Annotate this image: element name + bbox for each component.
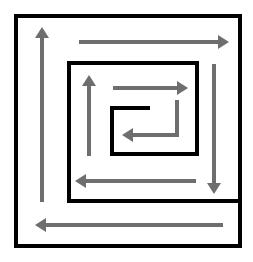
- arrow-right-icon: [113, 81, 188, 95]
- spiral-walls: [16, 16, 240, 246]
- arrow-left-icon: [75, 174, 196, 188]
- arrow-down-icon: [207, 64, 221, 194]
- spiral-diagram: [0, 0, 253, 262]
- arrow-up-icon: [82, 75, 96, 156]
- arrow-left-icon: [35, 218, 223, 232]
- arrow-up-icon: [35, 27, 49, 202]
- arrow-right-icon: [79, 35, 229, 49]
- outer-box-wall: [16, 16, 240, 246]
